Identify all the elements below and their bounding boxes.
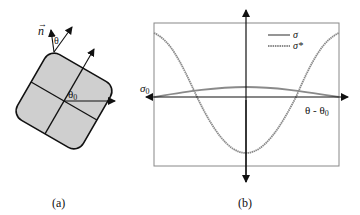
legend-sigma-star-label: σ* bbox=[293, 40, 303, 51]
theta-label: θ bbox=[54, 35, 59, 46]
caption-b: (b) bbox=[238, 196, 252, 210]
x-axis-label: θ - θ0 bbox=[305, 104, 329, 118]
panel-b: σ0 θ - θ0 σ σ* (b) bbox=[140, 10, 348, 210]
figure: θ0 n → θ (a) σ0 θ - θ0 σ σ* (b) bbox=[0, 0, 360, 215]
vector-arrow-glyph: → bbox=[38, 19, 47, 29]
y-axis-label: σ0 bbox=[140, 82, 149, 96]
axis-arrow-icon bbox=[83, 49, 94, 68]
legend-sigma-label: σ bbox=[293, 29, 299, 40]
caption-a: (a) bbox=[52, 196, 65, 210]
legend: σ σ* bbox=[268, 29, 303, 51]
panel-a: θ0 n → θ (a) bbox=[12, 19, 116, 210]
